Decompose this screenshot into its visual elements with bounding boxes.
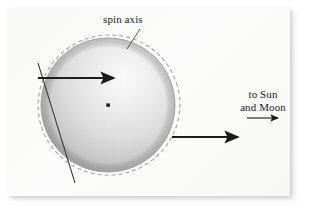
earth-center-dot — [106, 103, 109, 106]
to-sun-and-moon-label: to Sun and Moon — [227, 88, 299, 113]
figure-root: spin axis to Sun and Moon — [0, 0, 310, 208]
to-sun-line-1: to Sun — [248, 88, 277, 100]
spin-axis-label: spin axis — [103, 13, 143, 25]
to-sun-line-2: and Moon — [240, 101, 286, 113]
